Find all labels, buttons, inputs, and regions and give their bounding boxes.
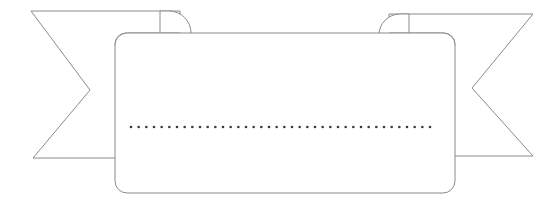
placeholder-dot xyxy=(237,126,240,129)
placeholder-dot xyxy=(260,126,263,129)
placeholder-dot xyxy=(344,126,347,129)
placeholder-dot xyxy=(291,126,294,129)
placeholder-dot xyxy=(375,126,378,129)
placeholder-dot xyxy=(191,126,194,129)
placeholder-dot xyxy=(314,126,317,129)
ribbon-banner-svg xyxy=(0,0,559,206)
placeholder-dot xyxy=(360,126,363,129)
placeholder-dot xyxy=(383,126,386,129)
placeholder-dot xyxy=(222,126,225,129)
placeholder-dot xyxy=(183,126,186,129)
main-panel xyxy=(115,33,455,193)
placeholder-dot xyxy=(130,126,133,129)
placeholder-dot xyxy=(176,126,179,129)
placeholder-dot xyxy=(245,126,248,129)
placeholder-dot xyxy=(337,126,340,129)
placeholder-dot xyxy=(168,126,171,129)
placeholder-dot xyxy=(268,126,271,129)
placeholder-dot xyxy=(137,126,140,129)
placeholder-dot xyxy=(352,126,355,129)
placeholder-dot xyxy=(153,126,156,129)
placeholder-dot xyxy=(229,126,232,129)
placeholder-dot xyxy=(406,126,409,129)
placeholder-dot xyxy=(199,126,202,129)
placeholder-dot xyxy=(145,126,148,129)
placeholder-dot xyxy=(206,126,209,129)
placeholder-dot xyxy=(298,126,301,129)
placeholder-dot xyxy=(429,126,432,129)
placeholder-dot xyxy=(329,126,332,129)
placeholder-dot xyxy=(214,126,217,129)
placeholder-dot xyxy=(321,126,324,129)
placeholder-dot xyxy=(421,126,424,129)
placeholder-dot xyxy=(367,126,370,129)
placeholder-dot xyxy=(398,126,401,129)
banner-stage xyxy=(0,0,559,206)
placeholder-dot xyxy=(275,126,278,129)
placeholder-dot xyxy=(160,126,163,129)
placeholder-dot xyxy=(252,126,255,129)
placeholder-dot xyxy=(283,126,286,129)
placeholder-dot xyxy=(390,126,393,129)
placeholder-dot xyxy=(306,126,309,129)
placeholder-dot xyxy=(413,126,416,129)
